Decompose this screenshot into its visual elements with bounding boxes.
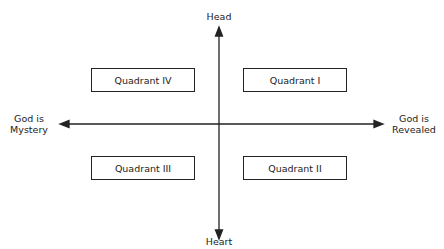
- quadrant-iii-box: Quadrant III: [91, 156, 195, 180]
- mystery-line2: Mystery: [4, 124, 54, 135]
- arrow-up-icon: [216, 27, 223, 36]
- mystery-line1: God is: [4, 113, 54, 124]
- arrow-right-icon: [374, 121, 383, 128]
- quadrant-ii-box: Quadrant II: [243, 156, 347, 180]
- axis-label-head: Head: [199, 11, 239, 22]
- revealed-line1: God is: [386, 113, 442, 124]
- axis-label-heart: Heart: [199, 236, 239, 247]
- quadrant-iv-box: Quadrant IV: [91, 68, 195, 92]
- quadrant-i-box: Quadrant I: [243, 68, 347, 92]
- axis-label-revealed: God is Revealed: [386, 113, 442, 135]
- quadrant-diagram: Head Heart God is Mystery God is Reveale…: [0, 0, 444, 249]
- arrow-left-icon: [60, 121, 69, 128]
- revealed-line2: Revealed: [386, 124, 442, 135]
- axis-label-mystery: God is Mystery: [4, 113, 54, 135]
- axes: [0, 0, 444, 249]
